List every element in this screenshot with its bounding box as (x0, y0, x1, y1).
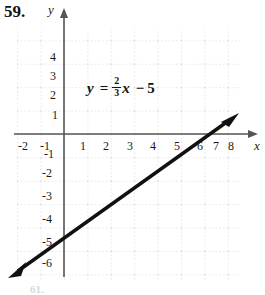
y-tick-neg5: -5 (42, 235, 52, 250)
x-tick-8: 8 (228, 139, 234, 154)
y-tick-4: 4 (50, 50, 56, 65)
y-tick-neg6: -6 (42, 256, 52, 271)
x-tick-1: 1 (80, 139, 86, 154)
fraction-two-thirds: 2 3 (112, 76, 121, 98)
y-tick-neg1: -1 (44, 147, 54, 162)
page-bottom-partial-text: 61. (30, 283, 44, 295)
equation-operator: − (133, 80, 148, 97)
x-tick-7: 7 (213, 139, 219, 154)
x-tick-6: 6 (197, 139, 203, 154)
y-tick-neg4: -4 (42, 212, 52, 227)
equation-lhs: y (87, 80, 97, 97)
y-axis-label: y (48, 2, 54, 18)
equation-equals: = (97, 80, 112, 97)
fraction-denominator: 3 (113, 88, 120, 98)
y-tick-3: 3 (50, 69, 56, 84)
equation-variable: x (122, 80, 133, 97)
y-tick-2: 2 (50, 88, 56, 103)
x-tick-neg2: -2 (18, 139, 28, 154)
x-tick-3: 3 (127, 139, 133, 154)
y-tick-neg2: -2 (42, 166, 52, 181)
fraction-numerator: 2 (113, 76, 120, 86)
x-tick-5: 5 (174, 139, 180, 154)
equation-annotation: y = 2 3 x − 5 (87, 77, 155, 99)
x-tick-4: 4 (150, 139, 156, 154)
x-tick-2: 2 (103, 139, 109, 154)
equation-constant: 5 (147, 80, 155, 97)
y-tick-neg3: -3 (42, 189, 52, 204)
y-tick-1: 1 (52, 108, 58, 123)
x-axis-label: x (254, 138, 260, 154)
